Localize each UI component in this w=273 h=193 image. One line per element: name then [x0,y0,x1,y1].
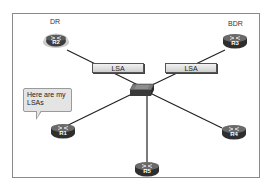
router-label-r3: R3 [222,40,248,46]
speech-bubble-line1: Here are my [27,91,68,99]
bdr-role-label: BDR [228,20,243,27]
lsa-label-right: LSA [165,63,217,73]
router-r4[interactable]: R4 [221,123,247,140]
switch-icon[interactable] [127,81,157,97]
router-label-r5: R5 [134,168,160,174]
router-r5[interactable]: R5 [134,160,160,177]
lsa-label-left: LSA [92,63,144,73]
router-label-r4: R4 [221,131,247,137]
speech-bubble-tail-fill [37,110,41,118]
router-r3[interactable]: R3 [222,32,248,49]
speech-bubble: Here are my LSAs [23,88,72,112]
router-r2[interactable]: R2 [43,31,69,48]
speech-bubble-line2: LSAs [27,99,68,107]
router-label-r1: R1 [50,130,76,136]
router-r1[interactable]: R1 [50,122,76,139]
router-label-r2: R2 [43,39,69,45]
dr-role-label: DR [50,18,60,25]
